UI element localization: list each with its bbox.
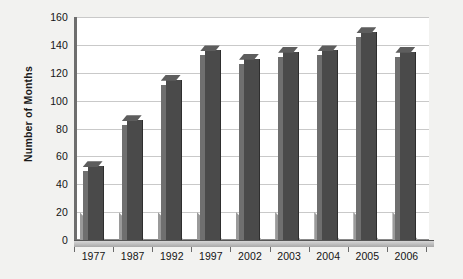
- bar-side-face: [200, 55, 205, 240]
- bar-side-face: [83, 171, 88, 240]
- bar-2006: [400, 52, 416, 240]
- y-axis-tick-120: 120: [28, 67, 68, 79]
- bar-chart: Number of Months 020406080100120140160 1…: [0, 0, 463, 279]
- bar-2004: [322, 50, 338, 240]
- bar-2003: [283, 52, 299, 240]
- bar-1987: [127, 120, 143, 240]
- bar-top-face: [278, 47, 298, 53]
- y-axis-tick-60: 60: [28, 150, 68, 162]
- y-axis-tick-160: 160: [28, 11, 68, 23]
- x-axis-tick-2005: 2005: [345, 250, 389, 262]
- bar-group-2004: [312, 17, 351, 240]
- bar-side-face: [239, 64, 244, 240]
- bar-1997: [205, 50, 221, 240]
- y-axis-tick-labels: 020406080100120140160: [28, 17, 68, 240]
- plot-area: [74, 17, 429, 240]
- bar-side-face: [395, 57, 400, 240]
- x-axis-line: [74, 240, 434, 247]
- y-axis-tick-0: 0: [28, 234, 68, 246]
- bar-group-2005: [351, 17, 390, 240]
- bar-group-1987: [117, 17, 156, 240]
- bar-1977: [88, 166, 104, 240]
- bar-top-face: [200, 45, 220, 51]
- x-axis-tick-1987: 1987: [111, 250, 155, 262]
- bar-top-face: [239, 54, 259, 60]
- bar-side-face: [317, 55, 322, 240]
- bar-side-face: [278, 57, 283, 240]
- bar-group-1997: [195, 17, 234, 240]
- bar-1992: [166, 80, 182, 240]
- y-axis-tick-40: 40: [28, 178, 68, 190]
- bar-side-face: [122, 125, 127, 240]
- x-axis-tick-2002: 2002: [228, 250, 272, 262]
- x-axis-tick-2003: 2003: [267, 250, 311, 262]
- x-axis-tick-1992: 1992: [150, 250, 194, 262]
- bar-group-2006: [390, 17, 429, 240]
- bar-group-1992: [156, 17, 195, 240]
- bar-group-2002: [234, 17, 273, 240]
- bar-group-1977: [78, 17, 117, 240]
- x-axis-tick-1997: 1997: [189, 250, 233, 262]
- bar-top-face: [161, 75, 181, 81]
- bar-2005: [361, 32, 377, 240]
- y-axis-tick-20: 20: [28, 206, 68, 218]
- x-axis-tick-2006: 2006: [384, 250, 428, 262]
- x-axis-tick-2004: 2004: [306, 250, 350, 262]
- bar-group-2003: [273, 17, 312, 240]
- y-axis-tick-140: 140: [28, 39, 68, 51]
- bar-side-face: [161, 85, 166, 240]
- bar-top-face: [317, 45, 337, 51]
- bar-2002: [244, 59, 260, 240]
- y-axis-tick-100: 100: [28, 95, 68, 107]
- bar-top-face: [83, 161, 103, 167]
- x-axis-tick-labels: 197719871992199720022003200420052006: [74, 250, 426, 272]
- y-axis-tick-80: 80: [28, 123, 68, 135]
- bar-top-face: [356, 27, 376, 33]
- bar-side-face: [356, 37, 361, 240]
- x-axis-tick-1977: 1977: [72, 250, 116, 262]
- bar-series: [77, 17, 429, 240]
- bar-top-face: [122, 115, 142, 121]
- bar-top-face: [395, 47, 415, 53]
